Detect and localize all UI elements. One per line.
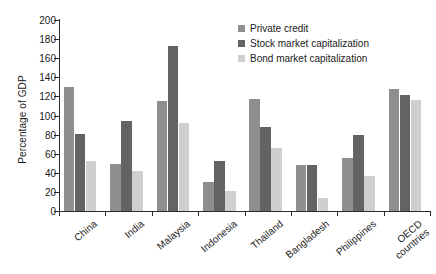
y-axis-tick-label: 180	[39, 34, 56, 45]
bar-chart: Percentage of GDP 0204060801001201401601…	[0, 0, 436, 274]
y-axis-tick-label: 120	[39, 91, 56, 102]
bar	[225, 191, 236, 211]
bar-group	[110, 20, 143, 211]
y-axis-tick-label: 40	[45, 167, 56, 178]
legend-item: Stock market capitalization	[238, 37, 369, 50]
y-axis-title: Percentage of GDP	[17, 40, 28, 200]
legend-swatch-icon	[238, 55, 245, 62]
bar	[157, 101, 168, 211]
y-axis-tick-label: 160	[39, 53, 56, 64]
bar	[110, 164, 121, 211]
bar	[271, 148, 282, 211]
bar-group	[157, 20, 190, 211]
bar	[86, 161, 97, 211]
y-axis-tick-label: 100	[39, 110, 56, 121]
bar	[260, 127, 271, 211]
bar	[318, 198, 329, 211]
bar	[132, 171, 143, 211]
x-axis-tick	[105, 211, 106, 216]
y-axis-tick-label: 60	[45, 148, 56, 159]
bar	[296, 165, 307, 211]
bar	[179, 123, 190, 211]
bar	[75, 134, 86, 211]
legend-item-label: Private credit	[250, 22, 308, 35]
bar	[249, 99, 260, 211]
bar	[364, 176, 375, 211]
legend-item: Bond market capitalization	[238, 52, 369, 65]
x-axis-tick	[430, 211, 431, 216]
bar-group	[64, 20, 97, 211]
bar-group	[389, 20, 422, 211]
bar	[389, 89, 400, 211]
bar	[168, 46, 179, 211]
x-axis-category-label: Thailand	[248, 218, 284, 251]
bar	[64, 87, 75, 211]
bar	[342, 158, 353, 211]
bar	[121, 121, 132, 211]
bar	[203, 182, 214, 211]
bar	[400, 95, 411, 211]
y-axis-tick-label: 0	[50, 206, 56, 217]
x-axis-category-label: Malaysia	[155, 218, 192, 252]
bar	[214, 161, 225, 211]
legend-item-label: Stock market capitalization	[250, 37, 369, 50]
x-axis-category-label: Bangladesh	[284, 218, 332, 260]
legend-swatch-icon	[238, 25, 245, 32]
x-axis-tick	[337, 211, 338, 216]
x-axis-category-label: Philippines	[334, 218, 378, 258]
bar	[411, 100, 422, 211]
y-axis-tick-label: 140	[39, 72, 56, 83]
y-axis-tick-label: 200	[39, 15, 56, 26]
x-axis-tick	[198, 211, 199, 216]
bar-group	[203, 20, 236, 211]
x-axis-tick	[245, 211, 246, 216]
chart-legend: Private creditStock market capitalizatio…	[238, 22, 369, 67]
x-axis-tick	[59, 211, 60, 216]
x-axis-category-label: Indonesia	[198, 218, 238, 254]
y-axis-tick-label: 20	[45, 186, 56, 197]
legend-item: Private credit	[238, 22, 369, 35]
x-axis-tick	[384, 211, 385, 216]
x-axis-tick	[152, 211, 153, 216]
legend-item-label: Bond market capitalization	[250, 52, 367, 65]
x-axis-category-label: India	[122, 218, 146, 240]
y-axis-tick-label: 80	[45, 129, 56, 140]
legend-swatch-icon	[238, 40, 245, 47]
x-axis-category-label: China	[72, 218, 99, 243]
x-axis-tick	[291, 211, 292, 216]
bar	[353, 135, 364, 211]
bar	[307, 165, 318, 211]
